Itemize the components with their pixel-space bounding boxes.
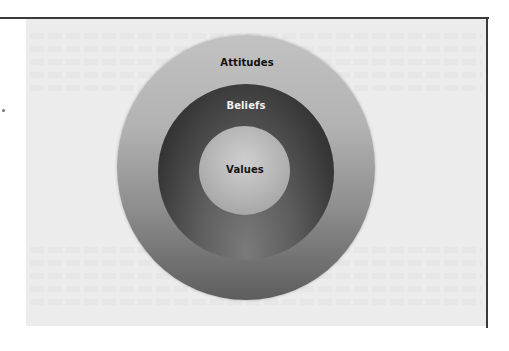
show-through-text-line (30, 299, 482, 305)
beliefs-label: Beliefs (226, 100, 265, 111)
stray-mark (2, 109, 5, 112)
attitudes-label: Attitudes (220, 57, 273, 68)
values-label: Values (226, 164, 264, 175)
frame-right-rule (486, 17, 488, 328)
